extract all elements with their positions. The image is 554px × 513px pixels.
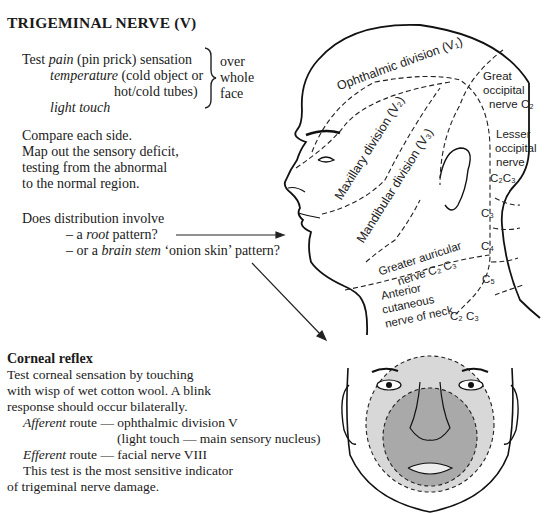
efferent-term: Efferent xyxy=(23,447,66,462)
afferent-route: Afferent route — ophthalmic division V xyxy=(23,415,238,431)
label-c5: C₅ xyxy=(482,273,495,285)
temperature-desc: (cold object or xyxy=(118,68,203,83)
afferent-desc: route — ophthalmic division V xyxy=(66,415,238,430)
label-great-occipital-3: nerve C₂ xyxy=(489,98,534,110)
temperature-term: temperature xyxy=(50,68,118,83)
opt-prefix: – or a xyxy=(66,243,101,258)
brace-text-face: face xyxy=(220,86,243,102)
label-great-occipital-1: Great xyxy=(483,70,512,82)
test-line-temperature: temperature (cold object or xyxy=(50,68,203,84)
pain-term: pain xyxy=(49,52,74,67)
arrow-root-pattern xyxy=(176,232,284,238)
efferent-desc: route — facial nerve VIII xyxy=(66,447,207,462)
label-lesser-occipital-3: nerve xyxy=(496,156,525,168)
brace-text-whole: whole xyxy=(220,70,254,86)
opt-suffix: ‘onion skin’ pattern? xyxy=(161,243,280,258)
label-lesser-occipital-1: Lesser xyxy=(496,128,531,140)
afferent-continuation: (light touch — main sensory nucleus) xyxy=(117,431,321,447)
afferent-term: Afferent xyxy=(23,415,66,430)
test-line-light-touch: light touch xyxy=(50,100,110,116)
distribution-option-brainstem: – or a brain stem ‘onion skin’ pattern? xyxy=(66,243,280,259)
brace xyxy=(205,48,216,108)
label-great-occipital-2: occipital xyxy=(483,84,525,96)
corneal-line-1: Test corneal sensation by touching xyxy=(7,367,194,383)
test-line-tubes: hot/cold tubes) xyxy=(114,84,198,100)
test-line-pain: Test pain (pin prick) sensation xyxy=(22,52,192,68)
label-c3: C₃ xyxy=(481,207,494,219)
page-title: TRIGEMINAL NERVE (V) xyxy=(7,14,196,32)
corneal-line-2: with wisp of wet cotton wool. A blink xyxy=(7,383,211,399)
distribution-option-root: – a root pattern? xyxy=(66,227,158,243)
corneal-line-3: response should occur bilaterally. xyxy=(7,399,188,415)
label-lesser-occipital-4: C₂C₃ xyxy=(490,172,516,184)
label-anterior-cutaneous-4: C₂ C₃ xyxy=(450,310,479,322)
opt-suffix: pattern? xyxy=(109,227,158,242)
efferent-route: Efferent route — facial nerve VIII xyxy=(23,447,207,463)
front-face-drawing xyxy=(342,356,518,512)
distribution-question: Does distribution involve xyxy=(22,211,164,227)
corneal-heading: Corneal reflex xyxy=(7,351,93,367)
label-lesser-occipital-2: occipital xyxy=(495,142,537,154)
root-term: root xyxy=(86,227,109,242)
opt-prefix: – a xyxy=(66,227,86,242)
sensitivity-line-1: This test is the most sensitive indicato… xyxy=(23,463,233,479)
compare-line-3: testing from the abnormal xyxy=(22,160,167,176)
light-touch-term: light touch xyxy=(50,100,110,115)
arrow-onion-skin xyxy=(252,263,326,340)
test-prefix: Test xyxy=(22,52,49,67)
pain-desc: (pin prick) sensation xyxy=(74,52,193,67)
compare-line-4: to the normal region. xyxy=(22,176,139,192)
compare-line-1: Compare each side. xyxy=(22,128,132,144)
compare-line-2: Map out the sensory deficit, xyxy=(22,144,179,160)
sensitivity-line-2: of trigeminal nerve damage. xyxy=(7,479,159,495)
brace-text-over: over xyxy=(220,54,245,70)
brain-stem-term: brain stem xyxy=(101,243,161,258)
label-c4: C₄ xyxy=(481,240,494,252)
